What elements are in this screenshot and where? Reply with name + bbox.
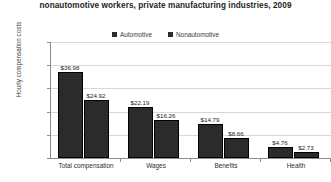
legend-entry-automotive: Automotive — [112, 31, 152, 38]
bar — [154, 120, 179, 158]
bar — [224, 138, 249, 158]
bar-chart: nonautomotive workers, private manufactu… — [0, 0, 331, 182]
bar-group: $36.98$24.92 — [51, 42, 121, 158]
bar — [294, 152, 319, 158]
bar-group: $22.19$16.26 — [121, 42, 191, 158]
bar — [58, 72, 83, 158]
y-axis-title: Hourly compensation costs — [15, 5, 22, 115]
bar-group: $4.76$2.73 — [261, 42, 331, 158]
x-axis-category-label: Health — [261, 162, 331, 169]
legend-entry-nonautomotive: Nonautomotive — [168, 31, 219, 38]
bar-value-label: $22.19 — [125, 99, 156, 106]
x-axis-category-label: Benefits — [191, 162, 261, 169]
bar-value-label: $36.98 — [55, 64, 86, 71]
bar-value-label: $24.92 — [81, 92, 112, 99]
bar — [128, 107, 153, 158]
x-axis-line — [47, 158, 331, 159]
bar-value-label: $16.26 — [151, 112, 182, 119]
x-axis-category-label: Total compensation — [51, 162, 121, 169]
legend-label: Automotive — [120, 31, 152, 38]
legend-swatch-icon — [112, 32, 117, 37]
y-axis-tick — [47, 158, 51, 159]
bar-value-label: $2.73 — [291, 144, 322, 151]
x-axis-category-label: Wages — [121, 162, 191, 169]
legend-label: Nonautomotive — [176, 31, 219, 38]
legend-swatch-icon — [168, 32, 173, 37]
bar — [84, 100, 109, 158]
bar — [198, 124, 223, 158]
plot-area: $36.98$24.92$22.19$16.26$14.79$8.66$4.76… — [51, 42, 331, 158]
chart-legend: Automotive Nonautomotive — [0, 29, 331, 39]
chart-title: nonautomotive workers, private manufactu… — [0, 1, 331, 11]
bar — [268, 147, 293, 158]
bar-value-label: $8.66 — [221, 130, 252, 137]
bar-value-label: $14.79 — [195, 116, 226, 123]
bar-group: $14.79$8.66 — [191, 42, 261, 158]
